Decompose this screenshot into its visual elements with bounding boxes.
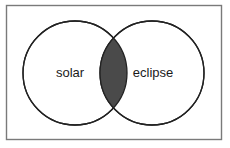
venn-label-eclipse: eclipse — [133, 65, 173, 80]
venn-diagram-canvas: solar eclipse — [0, 0, 230, 148]
venn-diagram-figure: solar eclipse — [0, 0, 230, 148]
venn-label-solar: solar — [56, 65, 85, 80]
